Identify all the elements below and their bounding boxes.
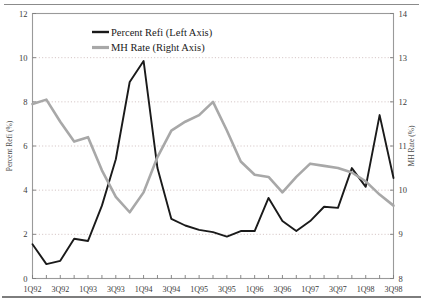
left-axis-tick-label: 0 bbox=[23, 274, 27, 284]
x-axis-tick-label: 1Q97 bbox=[301, 285, 319, 294]
left-axis-tick-label: 2 bbox=[23, 229, 27, 239]
left-axis-title: Percent Refi (%) bbox=[5, 120, 14, 171]
x-axis-tick-label: 1Q93 bbox=[79, 285, 97, 294]
right-axis-tick-label: 8 bbox=[399, 274, 403, 284]
x-axis: 1Q923Q921Q933Q931Q943Q941Q953Q951Q963Q96… bbox=[24, 275, 403, 294]
series-line-mh-rate bbox=[33, 100, 394, 213]
x-axis-tick-label: 1Q94 bbox=[135, 285, 153, 294]
x-axis-tick-label: 1Q98 bbox=[357, 285, 375, 294]
right-axis-tick-label: 14 bbox=[399, 9, 408, 19]
plot-frame bbox=[33, 14, 394, 279]
left-axis-tick-label: 10 bbox=[19, 53, 28, 63]
chart-legend: Percent Refi (Left Axis)MH Rate (Right A… bbox=[92, 27, 213, 55]
dual-axis-line-chart: 0246810128910111213141Q923Q921Q933Q931Q9… bbox=[0, 0, 423, 303]
series-group bbox=[33, 61, 394, 264]
chart-figure: 0246810128910111213141Q923Q921Q933Q931Q9… bbox=[0, 0, 423, 303]
x-axis-tick-label: 3Q98 bbox=[385, 285, 403, 294]
x-axis-tick-label: 3Q93 bbox=[107, 285, 125, 294]
right-axis-tick-label: 11 bbox=[399, 141, 407, 151]
x-axis-tick-label: 1Q95 bbox=[190, 285, 208, 294]
left-axis: 024681012 bbox=[19, 9, 36, 284]
right-axis: 891011121314 bbox=[390, 9, 408, 284]
series-line-percent-refi bbox=[33, 61, 394, 264]
x-axis-tick-label: 1Q96 bbox=[246, 285, 264, 294]
x-axis-tick-label: 3Q97 bbox=[329, 285, 347, 294]
x-axis-tick-label: 3Q94 bbox=[162, 285, 180, 294]
right-axis-title: MH Rate (%) bbox=[407, 125, 416, 166]
right-axis-tick-label: 9 bbox=[399, 229, 403, 239]
right-axis-tick-label: 12 bbox=[399, 97, 408, 107]
right-axis-tick-label: 10 bbox=[399, 185, 408, 195]
right-axis-tick-label: 13 bbox=[399, 53, 408, 63]
x-axis-tick-label: 1Q92 bbox=[24, 285, 42, 294]
left-axis-tick-label: 6 bbox=[23, 141, 27, 151]
x-axis-tick-label: 3Q95 bbox=[218, 285, 236, 294]
legend-label-mh-rate: MH Rate (Right Axis) bbox=[111, 42, 205, 54]
x-axis-tick-label: 3Q92 bbox=[51, 285, 69, 294]
gridlines bbox=[33, 58, 394, 235]
left-axis-tick-label: 12 bbox=[19, 9, 28, 19]
x-axis-tick-label: 3Q96 bbox=[274, 285, 292, 294]
left-axis-tick-label: 4 bbox=[23, 185, 28, 195]
legend-label-percent-refi: Percent Refi (Left Axis) bbox=[111, 27, 213, 39]
left-axis-tick-label: 8 bbox=[23, 97, 27, 107]
